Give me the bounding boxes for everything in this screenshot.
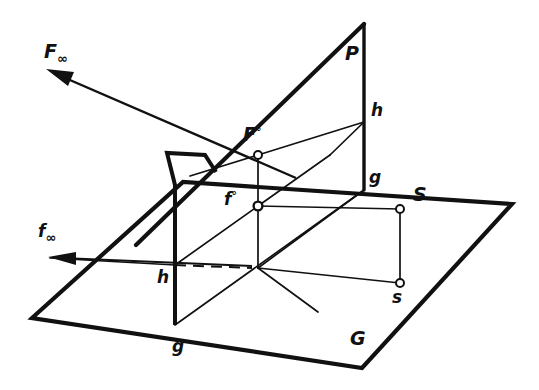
ground-plane-G — [32, 182, 512, 368]
geometry-figure: F∞ f∞ P h g S s F° f° h g G — [0, 0, 539, 390]
label-g-lower: g — [172, 336, 184, 356]
label-f-infinity: f∞ — [38, 221, 56, 245]
line-h-lower-to-S-aux — [175, 209, 400, 265]
point-S — [396, 205, 404, 213]
ground-plane-outline — [32, 182, 512, 368]
label-h-upper: h — [371, 100, 383, 120]
label-h-lower: h — [157, 267, 169, 287]
label-g-upper: g — [369, 167, 381, 187]
label-s: s — [392, 287, 402, 307]
figure-labels: F∞ f∞ P h g S s F° f° h g G — [38, 40, 427, 356]
vertical-plane — [167, 153, 216, 325]
point-markers — [254, 151, 404, 287]
label-F-zero: F° — [243, 123, 261, 145]
label-G: G — [350, 327, 366, 349]
line-s-to-base — [258, 268, 400, 283]
point-F-zero — [254, 151, 262, 159]
figure-canvas: F∞ f∞ P h g S s F° f° h g G — [0, 0, 539, 390]
label-P: P — [345, 42, 359, 64]
point-f-zero — [254, 202, 263, 211]
line-ground-down-right — [258, 268, 318, 312]
line-h-lower-to-f-zero — [175, 206, 258, 265]
arrow-F-infinity-head — [46, 69, 74, 86]
line-f-zero-to-S — [258, 206, 400, 209]
label-F-infinity: F∞ — [44, 40, 68, 66]
point-s — [396, 279, 404, 287]
vertical-plane-outline — [167, 153, 216, 325]
line-f-zero-up-right — [258, 155, 330, 206]
label-f-zero: f° — [224, 189, 237, 209]
label-S: S — [413, 183, 427, 205]
construction-lines — [50, 122, 400, 325]
